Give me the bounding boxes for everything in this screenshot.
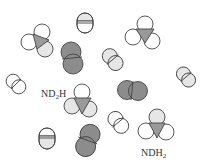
diatomic-molecule-hd-1: [77, 13, 93, 33]
molecule-scene: [0, 0, 205, 166]
amine-molecule-1: [21, 24, 53, 57]
nd2h-label: ND2H: [41, 89, 66, 99]
nd2h-label-tail: H: [59, 88, 66, 99]
diatomic-molecule-hd-4: [39, 128, 55, 149]
diatomic-molecule-d2-2: [118, 81, 148, 101]
diatomic-molecule-h2-1: [3, 71, 28, 96]
diatomic-molecule-h2-2: [105, 108, 132, 136]
ndh2-molecule: [138, 109, 174, 140]
nd2h-label-main: ND: [41, 88, 55, 99]
amine-molecule-2: [125, 16, 160, 49]
ndh2-label-main: NDH: [141, 147, 163, 158]
diatomic-molecule-hd-2: [99, 46, 126, 74]
ndh2-label-sub: 2: [163, 152, 167, 160]
diatomic-molecule-d2-3: [73, 122, 103, 160]
nd2h-molecule: [64, 84, 97, 117]
ndh2-label: NDH2: [141, 148, 166, 158]
diatomic-molecule-d2-1: [61, 42, 83, 74]
diatomic-molecule-hd-3: [174, 64, 199, 90]
